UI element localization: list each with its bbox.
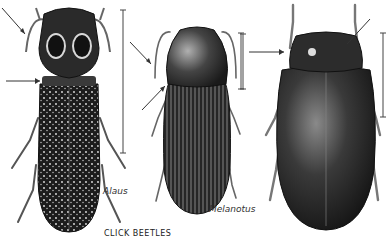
figure-caption: CLICK BEETLES — [104, 229, 171, 236]
third-beetle — [240, 5, 386, 230]
melanotus-beetle — [130, 27, 244, 214]
melanotus-label: Melanotus — [209, 204, 255, 214]
alaus-label: Alaus — [103, 186, 128, 196]
alaus-beetle — [2, 8, 126, 232]
beetle-illustration-plate — [0, 0, 387, 236]
